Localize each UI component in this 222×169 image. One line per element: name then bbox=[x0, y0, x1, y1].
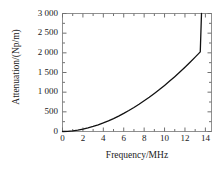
x-tick-label: 10 bbox=[155, 133, 175, 143]
x-tick-label: 8 bbox=[134, 133, 154, 143]
attenuation-curve bbox=[63, 14, 202, 132]
x-tick-label: 6 bbox=[114, 133, 134, 143]
y-axis-tick-labels: 05001 0001 5002 0002 5003 000 bbox=[22, 0, 58, 169]
y-axis-title: Attenuation/(Np/m) bbox=[11, 7, 21, 127]
y-tick-label: 2 000 bbox=[26, 47, 58, 57]
x-tick-label: 4 bbox=[93, 133, 113, 143]
x-tick-label: 14 bbox=[195, 133, 215, 143]
y-tick-label: 2 500 bbox=[26, 27, 58, 37]
y-tick-label: 500 bbox=[26, 106, 58, 116]
axis-tick-marks bbox=[63, 14, 212, 132]
x-tick-label: 0 bbox=[53, 133, 73, 143]
x-axis-title: Frequency/MHz bbox=[62, 150, 212, 160]
x-tick-label: 2 bbox=[73, 133, 93, 143]
chart-figure: 05001 0001 5002 0002 5003 000 0246810121… bbox=[0, 0, 222, 169]
y-tick-label: 1 000 bbox=[26, 86, 58, 96]
plot-frame bbox=[63, 14, 212, 132]
x-tick-label: 12 bbox=[175, 133, 195, 143]
y-tick-label: 1 500 bbox=[26, 67, 58, 77]
y-tick-label: 3 000 bbox=[26, 8, 58, 18]
